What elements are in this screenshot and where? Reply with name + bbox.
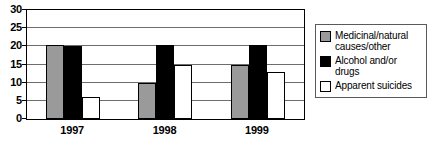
y-tick-label: 30 bbox=[2, 4, 22, 15]
plot-area bbox=[26, 9, 305, 120]
legend-swatch bbox=[320, 81, 331, 92]
legend-label: Alcohol and/or drugs bbox=[335, 55, 397, 77]
bar bbox=[82, 97, 100, 119]
bar bbox=[267, 72, 285, 119]
y-tick-label: 15 bbox=[2, 58, 22, 69]
bar bbox=[138, 83, 156, 119]
x-axis-labels: 199719981999 bbox=[26, 124, 305, 142]
legend-item: Alcohol and/or drugs bbox=[320, 55, 423, 77]
y-tick-label: 20 bbox=[2, 40, 22, 51]
bar-group bbox=[212, 10, 304, 119]
bar bbox=[231, 65, 249, 120]
legend-swatch bbox=[320, 31, 331, 42]
x-tick-label: 1998 bbox=[153, 124, 177, 136]
legend-item: Apparent suicides bbox=[320, 80, 423, 92]
y-axis-labels: 051015202530 bbox=[2, 0, 22, 153]
bar bbox=[174, 65, 192, 120]
legend-label: Medicinal/natural causes/other bbox=[335, 30, 408, 52]
y-tick-label: 0 bbox=[2, 113, 22, 124]
bar bbox=[64, 46, 82, 119]
x-tick-label: 1997 bbox=[60, 124, 84, 136]
chart-legend: Medicinal/natural causes/otherAlcohol an… bbox=[315, 24, 427, 98]
x-tick-label: 1999 bbox=[245, 124, 269, 136]
bar bbox=[156, 45, 174, 119]
legend-swatch bbox=[320, 56, 331, 67]
bar-chart: 051015202530 199719981999 Medicinal/natu… bbox=[0, 0, 428, 153]
legend-label: Apparent suicides bbox=[335, 80, 412, 91]
bar bbox=[249, 45, 267, 119]
y-tick-label: 5 bbox=[2, 94, 22, 105]
bar bbox=[46, 45, 64, 119]
y-tick-label: 10 bbox=[2, 76, 22, 87]
y-tick-label: 25 bbox=[2, 22, 22, 33]
bar-group bbox=[27, 10, 119, 119]
legend-item: Medicinal/natural causes/other bbox=[320, 30, 423, 52]
bar-group bbox=[119, 10, 211, 119]
